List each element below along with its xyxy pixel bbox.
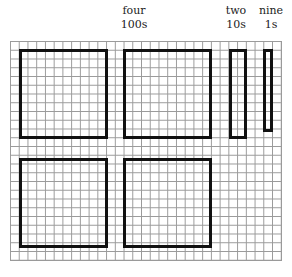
hundred-block-3 [19,158,108,248]
ones-bar [263,49,273,132]
label-hundreds: four 100s [114,4,154,32]
hundred-block-1 [19,49,108,139]
hundred-block-2 [123,49,212,139]
tens-word: two [216,4,256,18]
label-ones: nine 1s [251,4,291,32]
tens-place: 10s [216,18,256,32]
ones-place: 1s [251,18,291,32]
hundreds-place: 100s [114,18,154,32]
ten-bar-1 [229,49,247,139]
hundred-block-4 [123,158,212,248]
ones-word: nine [251,4,291,18]
hundreds-word: four [114,4,154,18]
label-tens: two 10s [216,4,256,32]
